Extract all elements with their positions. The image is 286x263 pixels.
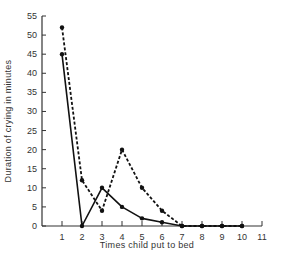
dashed-series-line (62, 27, 242, 226)
axes (42, 16, 262, 226)
solid-data-point (120, 205, 124, 209)
dashed-data-point (240, 224, 244, 228)
solid-data-point (100, 186, 104, 190)
y-tick-label: 15 (27, 164, 37, 174)
y-tick-label: 35 (27, 87, 37, 97)
x-axis-ticks: 1234567891011 (59, 221, 266, 242)
dashed-data-point (140, 186, 144, 190)
x-tick-label: 2 (79, 232, 84, 242)
solid-series-line (62, 54, 242, 226)
data-series (60, 25, 244, 228)
x-tick-label: 10 (237, 232, 247, 242)
y-tick-label: 55 (27, 11, 37, 21)
solid-data-point (60, 52, 64, 56)
dashed-data-point (60, 25, 64, 29)
x-tick-label: 11 (257, 232, 266, 242)
y-tick-label: 20 (27, 145, 37, 155)
x-axis-label: Times child put to bed (100, 240, 194, 250)
y-tick-label: 10 (27, 183, 37, 193)
solid-data-point (80, 224, 84, 228)
dashed-data-point (180, 224, 184, 228)
solid-data-point (160, 220, 164, 224)
y-tick-label: 50 (27, 30, 37, 40)
x-tick-label: 9 (219, 232, 224, 242)
y-axis-label: Duration of crying in minutes (3, 59, 13, 182)
y-tick-label: 45 (27, 49, 37, 59)
y-axis-ticks: 0510152025303540455055 (27, 11, 46, 231)
dashed-data-point (220, 224, 224, 228)
y-tick-label: 30 (27, 106, 37, 116)
dashed-data-point (160, 209, 164, 213)
dashed-data-point (120, 147, 124, 151)
y-tick-label: 0 (32, 221, 37, 231)
dashed-data-point (100, 209, 104, 213)
y-tick-label: 5 (32, 202, 37, 212)
x-tick-label: 8 (199, 232, 204, 242)
y-tick-label: 40 (27, 68, 37, 78)
y-tick-label: 25 (27, 126, 37, 136)
solid-data-point (140, 216, 144, 220)
crying-duration-line-chart: 0510152025303540455055 1234567891011 Tim… (0, 0, 286, 263)
dashed-data-point (80, 178, 84, 182)
dashed-data-point (200, 224, 204, 228)
x-tick-label: 1 (59, 232, 64, 242)
